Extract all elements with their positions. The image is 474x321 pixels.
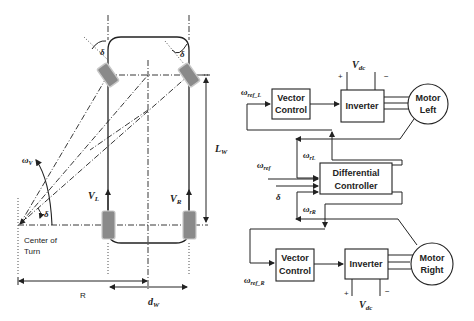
svg-text:Control: Control	[279, 266, 311, 276]
vdc-top-plus: +	[338, 72, 343, 81]
track-width-label: dW	[148, 296, 160, 309]
vdc-bottom-label: Vdc	[359, 299, 372, 312]
wr-right-label: ωrR	[303, 204, 316, 215]
rear-left-wheel	[102, 211, 115, 239]
center-of-turn-label-2: Turn	[24, 247, 40, 256]
svg-text:Right: Right	[421, 265, 444, 275]
wr-left-label: ωrL	[303, 150, 316, 161]
steer-angle-right: δ	[180, 49, 185, 59]
vehicle-diagram: δ δ VL VR LW ωV δ Center of Turn R	[18, 15, 228, 309]
radius-label: R	[80, 291, 86, 300]
w-ref-label: ωref	[257, 160, 272, 171]
control-diagram: Vdc + − ωref_L Vector Control Inverter M…	[241, 59, 453, 312]
svg-text:Inverter: Inverter	[349, 259, 383, 269]
diagram-canvas: δ δ VL VR LW ωV δ Center of Turn R	[0, 0, 474, 321]
delta-input-label: δ	[276, 192, 281, 202]
vdc-bottom-plus: +	[344, 289, 349, 298]
vdc-top-label: Vdc	[352, 59, 365, 72]
ref-left-label: ωref_L	[241, 87, 262, 98]
front-right-wheel	[178, 63, 200, 88]
svg-text:Controller: Controller	[334, 181, 377, 191]
steer-angle-left: δ	[100, 47, 105, 57]
vehicle-body	[108, 37, 189, 243]
vel-right-label: VR	[170, 193, 182, 206]
svg-text:Vector: Vector	[277, 93, 305, 103]
rear-right-wheel	[183, 211, 196, 239]
front-left-wheel	[97, 63, 119, 88]
center-of-turn-label-1: Center of	[24, 236, 58, 245]
svg-text:Vector: Vector	[281, 253, 309, 263]
svg-text:Motor: Motor	[416, 93, 441, 103]
yaw-rate-label: ωV	[22, 155, 34, 166]
svg-text:Left: Left	[420, 105, 437, 115]
svg-text:Motor: Motor	[420, 253, 445, 263]
svg-text:Inverter: Inverter	[345, 101, 379, 111]
motor-left	[408, 84, 448, 124]
vdc-bottom-minus: −	[385, 287, 390, 296]
vdc-top-minus: −	[384, 72, 389, 81]
svg-text:Control: Control	[275, 105, 307, 115]
motor-right	[411, 243, 453, 285]
ref-right-label: ωref_R	[244, 275, 265, 286]
vel-left-label: VL	[88, 190, 99, 203]
turn-angle-label: δ	[44, 209, 49, 219]
wheelbase-label: LW	[214, 143, 228, 156]
svg-text:Differential: Differential	[332, 168, 379, 178]
